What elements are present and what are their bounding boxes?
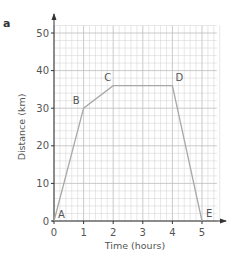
y-tick-label: 20: [36, 140, 49, 151]
x-axis-arrow-icon: [220, 219, 227, 224]
y-tick-label: 0: [43, 216, 49, 227]
tick-labels: 01234501020304050: [36, 28, 205, 239]
x-tick-label: 5: [199, 227, 205, 238]
grid: [54, 25, 220, 221]
panel-label: a: [3, 17, 10, 30]
y-tick-label: 10: [36, 178, 49, 189]
y-tick-label: 30: [36, 103, 49, 114]
point-label-a: A: [58, 209, 65, 220]
x-tick-label: 3: [140, 227, 146, 238]
point-label-e: E: [206, 208, 212, 219]
y-tick-label: 50: [36, 28, 49, 39]
x-tick-label: 2: [110, 227, 116, 238]
x-tick-label: 4: [169, 227, 175, 238]
x-tick-label: 0: [51, 227, 57, 238]
point-label-b: B: [73, 95, 80, 106]
point-label-c: C: [104, 72, 111, 83]
y-axis-arrow-icon: [52, 13, 57, 20]
y-tick-label: 40: [36, 65, 49, 76]
point-label-d: D: [175, 72, 183, 83]
distance-time-graph: 01234501020304050 ABCDE a Time (hours) D…: [0, 0, 235, 273]
x-tick-label: 1: [80, 227, 86, 238]
y-axis-label: Distance (km): [16, 94, 27, 161]
x-axis-label: Time (hours): [104, 240, 165, 251]
